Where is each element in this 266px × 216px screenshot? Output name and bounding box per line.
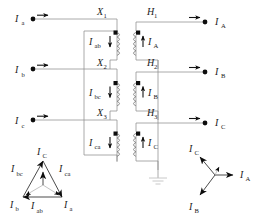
delta-current-phasor: I C I b I a I bc I ca I ab [9,146,73,214]
phasor-sub-iab: ab [37,207,44,214]
phasor-sub-ica: ca [65,170,71,177]
current-IC-sub: C [154,143,159,150]
wye-labels: H 1 I A H 2 I B H 3 I C [146,6,159,150]
wye-coil-1 [134,31,144,61]
delta-coil-2 [110,81,120,111]
tap-x1-sub: 1 [104,12,107,19]
terminal-ic-label: I [14,115,19,126]
phasor-inner-wye [215,167,219,175]
current-ibc-sub: bc [95,93,101,100]
terminal-ic-node [31,118,36,123]
phasor-sub-ia: a [70,205,73,212]
terminal-ib-node [31,67,36,72]
terminal-IB: I B [189,66,226,79]
wire-h2-out [136,72,205,81]
current-ica-sub: ca [95,143,101,150]
terminal-IB-sub: B [221,72,226,79]
wye-phasor-sub-IC: C [195,149,200,156]
phasor-label-ib: I [9,199,14,210]
current-ibc-label: I [88,87,93,98]
terminal-ia-label: I [14,13,19,24]
polarity-mark-h1 [136,31,140,35]
current-IB-label: I [147,87,152,98]
terminal-ic-sub: c [22,122,25,129]
wye-coil-3 [134,132,144,162]
wye-coils [134,31,144,162]
terminal-IC-label: I [214,117,219,128]
terminal-IA-label: I [214,16,219,27]
polarity-mark-h2 [136,81,140,85]
tap-h1-sub: 1 [154,12,157,19]
delta-labels: X 1 I ab X 2 I bc X 3 I ca [88,6,108,150]
phasor-label-ica: I [58,163,63,174]
phasor-sub-IC: C [43,152,48,159]
wire-h3-neutral [136,161,158,170]
phasor-ibc [23,161,43,197]
phasor-label-IC: I [36,146,41,157]
terminal-IA: I A [189,16,226,29]
phasor-label-ibc: I [10,163,15,174]
wire-h3-out [136,123,205,132]
phasor-IC-wye [200,157,215,175]
wye-phasor-label-IA: I [239,169,244,180]
terminal-IB-node [203,70,208,75]
terminal-IA-sub: A [221,22,226,29]
terminal-IB-label: I [214,66,219,77]
current-ica-label: I [88,137,93,148]
terminal-ib-label: I [14,64,19,75]
terminal-ia-sub: a [22,19,25,26]
current-IC-label: I [147,137,152,148]
ground-symbol [149,178,167,184]
current-iab-sub: ab [95,42,102,49]
phasor-label-ia: I [63,199,68,210]
phasor-IB-wye [200,175,215,195]
tap-h3-sub: 3 [154,113,158,120]
delta-coil-1 [110,31,120,61]
transformer-schematic: I a I b I c [0,0,266,216]
right-terminal-group: I A I B I C [189,16,226,130]
delta-coils [110,31,120,162]
phasor-label-iab: I [30,200,35,211]
terminal-IC: I C [189,117,226,130]
delta-coil-3 [110,132,120,162]
wye-phasor-label-IB: I [188,201,193,212]
current-iab-label: I [88,36,93,47]
phasor-sub-ibc: bc [17,170,23,177]
terminal-IC-node [203,121,208,126]
wye-coil-2 [134,81,144,111]
tap-h2-sub: 2 [154,63,157,70]
tap-x2-sub: 2 [104,63,107,70]
wye-current-phasor: I C I A I B [188,143,251,214]
current-IA-sub: A [154,42,159,49]
terminal-IA-node [203,20,208,25]
phasor-sub-ib: b [16,205,20,212]
current-IA-label: I [147,36,152,47]
terminal-ib-sub: b [22,71,26,78]
figure-canvas: I a I b I c [0,0,266,216]
tap-x3-sub: 3 [104,113,108,120]
polarity-mark-h3 [136,132,140,136]
current-IB-sub: B [154,93,159,100]
wye-phasor-sub-IA: A [246,175,251,182]
wye-phasor-sub-IB: B [195,207,200,214]
terminal-IC-sub: C [221,123,226,130]
terminal-ia-node [31,17,36,22]
wye-phasor-label-IC: I [188,143,193,154]
wire-h1-out [136,22,205,31]
